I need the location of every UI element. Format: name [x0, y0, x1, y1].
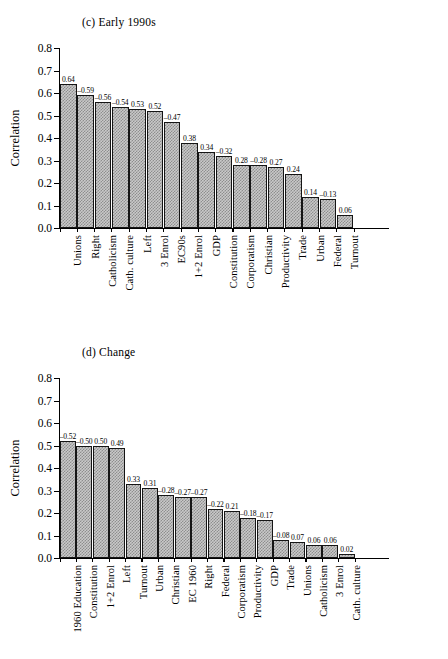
bar-value-label: –0.50	[76, 437, 93, 446]
panel-d-x-tick-label: Corporatism	[236, 565, 247, 619]
panel-d-y-tick-label: 0.7	[38, 395, 52, 407]
bar: 0.24	[285, 174, 302, 228]
panel-c-x-tick-mark	[302, 228, 303, 232]
bar-value-label: –0.13	[320, 190, 337, 199]
bar-value-label: 0.06	[324, 536, 337, 545]
panel-d-x-tick-mark	[158, 558, 159, 562]
bar: 0.53	[129, 109, 146, 228]
panel-c-x-tick-label: Left	[142, 235, 153, 253]
panel-d-x-tick-mark	[125, 558, 126, 562]
panel-d-x-tick-label: 1+2 Enrol	[105, 565, 116, 608]
panel-d-x-tick-label: 1960 Education	[72, 565, 83, 633]
chart-panel-d: (d) Change Correlation –0.521960 Educati…	[0, 330, 448, 659]
panel-d-x-tick-mark	[223, 558, 224, 562]
bar-value-label: 0.34	[200, 143, 213, 152]
panel-c-x-tick-mark	[146, 228, 147, 232]
chart-panel-c: (c) Early 1990s Correlation 0.64Unions–0…	[0, 0, 448, 329]
panel-c-y-tick-label: 0.5	[38, 110, 52, 122]
panel-d-y-tick-label: 0.3	[38, 485, 52, 497]
bar-value-label: –0.47	[164, 113, 181, 122]
panel-c-x-tick-mark	[129, 228, 130, 232]
panel-c-x-tick-label: Corporatism	[245, 235, 256, 289]
panel-d-y-tick-mark	[54, 558, 59, 559]
panel-d-x-tick-mark	[256, 558, 257, 562]
bar-value-label: 0.21	[225, 502, 238, 511]
bar-value-label: 0.27	[269, 158, 282, 167]
bar-value-label: –0.27	[191, 488, 208, 497]
panel-c-x-axis	[59, 228, 389, 229]
bar: 0.06	[306, 545, 322, 559]
panel-d-x-tick-label: Left	[121, 565, 132, 583]
panel-d-y-tick-label: 0.4	[38, 462, 52, 474]
panel-c-x-tick-mark	[111, 228, 112, 232]
panel-c-x-tick-mark	[336, 228, 337, 232]
panel-c-y-tick-label: 0.0	[38, 222, 52, 234]
panel-d-x-tick-label: Cath. culture	[351, 565, 362, 621]
bar: –0.54	[112, 107, 129, 229]
panel-c-y-tick-label: 0.2	[38, 177, 52, 189]
panel-c-y-tick-label: 0.3	[38, 155, 52, 167]
panel-d-y-tick-label: 0.6	[38, 417, 52, 429]
panel-c-y-tick-label: 0.8	[38, 42, 52, 54]
panel-d-x-tick-mark	[60, 558, 61, 562]
bar-value-label: –0.59	[77, 86, 94, 95]
bar: 0.64	[60, 84, 77, 228]
panel-d-x-tick-label: Catholicism	[318, 565, 329, 617]
panel-c-x-tick-mark	[354, 228, 355, 232]
panel-c-y-tick-mark	[54, 48, 59, 49]
bar: –0.17	[257, 520, 273, 558]
panel-d-x-tick-mark	[305, 558, 306, 562]
panel-d-x-tick-label: Urban	[154, 565, 165, 592]
bar: 0.06	[322, 545, 338, 559]
panel-c-x-tick-mark	[250, 228, 251, 232]
bar: –0.27	[191, 497, 207, 558]
bar: –0.28	[250, 165, 267, 228]
panel-c-x-tick-mark	[181, 228, 182, 232]
bar: 0.07	[290, 542, 306, 558]
bar: 0.14	[302, 197, 319, 229]
figure-page: (c) Early 1990s Correlation 0.64Unions–0…	[0, 0, 448, 659]
panel-d-y-tick-label: 0.5	[38, 440, 52, 452]
panel-c-x-tick-mark	[319, 228, 320, 232]
panel-d-x-tick-label: EC 1960	[187, 565, 198, 603]
panel-d-x-tick-label: GDP	[269, 565, 280, 586]
panel-d-y-tick-mark	[54, 401, 59, 402]
panel-d-y-tick-mark	[54, 491, 59, 492]
bar-value-label: 0.06	[307, 536, 320, 545]
panel-c-y-tick-mark	[54, 116, 59, 117]
bar-value-label: –0.56	[95, 93, 112, 102]
bar: –0.32	[216, 156, 233, 228]
panel-c-y-tick-mark	[54, 228, 59, 229]
panel-c-x-tick-label: Trade	[297, 235, 308, 260]
panel-c-x-tick-mark	[232, 228, 233, 232]
panel-c-y-tick-mark	[54, 206, 59, 207]
bar: 0.21	[224, 511, 240, 558]
panel-d-x-tick-mark	[240, 558, 241, 562]
bar: 0.27	[268, 167, 285, 228]
panel-d-x-tick-label: Productivity	[252, 565, 263, 618]
bar: –0.50	[76, 446, 92, 559]
panel-c-x-tick-label: Unions	[72, 235, 83, 266]
bar: –0.56	[95, 102, 112, 228]
panel-d-x-tick-mark	[76, 558, 77, 562]
bar-value-label: 0.28	[235, 156, 248, 165]
panel-c-x-tick-label: Right	[90, 235, 101, 259]
bar-value-label: 0.33	[127, 475, 140, 484]
panel-d-x-tick-mark	[355, 558, 356, 562]
bar: –0.52	[60, 441, 76, 558]
panel-c-y-tick-mark	[54, 93, 59, 94]
panel-c-x-tick-label: Federal	[332, 235, 343, 267]
bar-value-label: 0.06	[339, 206, 352, 215]
bar-value-label: –0.28	[250, 156, 267, 165]
panel-d-x-tick-mark	[191, 558, 192, 562]
panel-c-y-tick-label: 0.4	[38, 132, 52, 144]
bar-value-label: 0.24	[287, 165, 300, 174]
bar-value-label: 0.38	[183, 134, 196, 143]
panel-d-x-tick-mark	[174, 558, 175, 562]
bar-value-label: –0.08	[273, 531, 290, 540]
panel-d-y-tick-label: 0.8	[38, 372, 52, 384]
panel-c-x-tick-label: Productivity	[280, 235, 291, 288]
panel-c-x-tick-mark	[77, 228, 78, 232]
panel-c-x-tick-label: Catholicism	[107, 235, 118, 287]
bar: 0.38	[181, 143, 198, 229]
